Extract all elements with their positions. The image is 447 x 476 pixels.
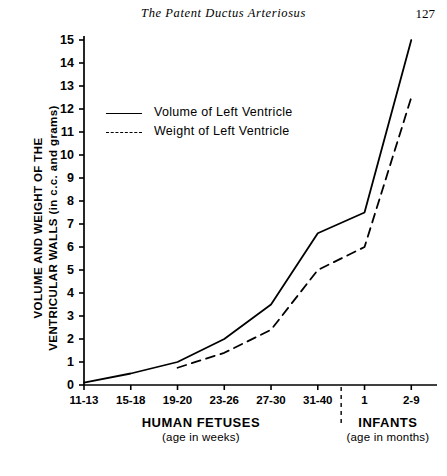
y-axis-title-line1: VOLUME AND WEIGHT OF THE xyxy=(31,98,46,358)
group-subtitle: (age in months) xyxy=(298,431,447,443)
y-axis-tick-15: 15 xyxy=(48,34,74,47)
y-axis-tick-13: 13 xyxy=(48,80,74,93)
series-line-volume xyxy=(84,40,411,383)
chart-axes xyxy=(79,36,437,390)
group-subtitle: (age in weeks) xyxy=(111,431,291,443)
x-axis-tick-2-9: 2-9 xyxy=(381,394,441,406)
y-axis-title: VOLUME AND WEIGHT OF THE VENTRICULAR WAL… xyxy=(31,98,61,358)
y-axis-title-line2: VENTRICULAR WALLS (in c.c. and grams) xyxy=(46,98,61,358)
group-caption-infants: INFANTS(age in months) xyxy=(298,415,447,443)
legend-label-weight: Weight of Left Ventricle xyxy=(154,124,290,138)
legend-label-volume: Volume of Left Ventricle xyxy=(154,105,293,119)
line-chart: 0123456789101112131415 11-1315-1819-2023… xyxy=(0,0,447,476)
series-line-weight xyxy=(178,98,412,368)
legend-key-dashed-line-icon xyxy=(106,132,142,133)
y-axis-tick-14: 14 xyxy=(48,57,74,70)
group-name: HUMAN FETUSES xyxy=(111,415,291,430)
chart-series xyxy=(84,40,411,383)
y-axis-tick-0: 0 xyxy=(48,379,74,392)
group-caption-fetuses: HUMAN FETUSES(age in weeks) xyxy=(111,415,291,443)
legend-key-solid-line-icon xyxy=(106,113,142,114)
group-name: INFANTS xyxy=(298,415,447,430)
figure-page: The Patent Ductus Arteriosus 127 0123456… xyxy=(0,0,447,476)
